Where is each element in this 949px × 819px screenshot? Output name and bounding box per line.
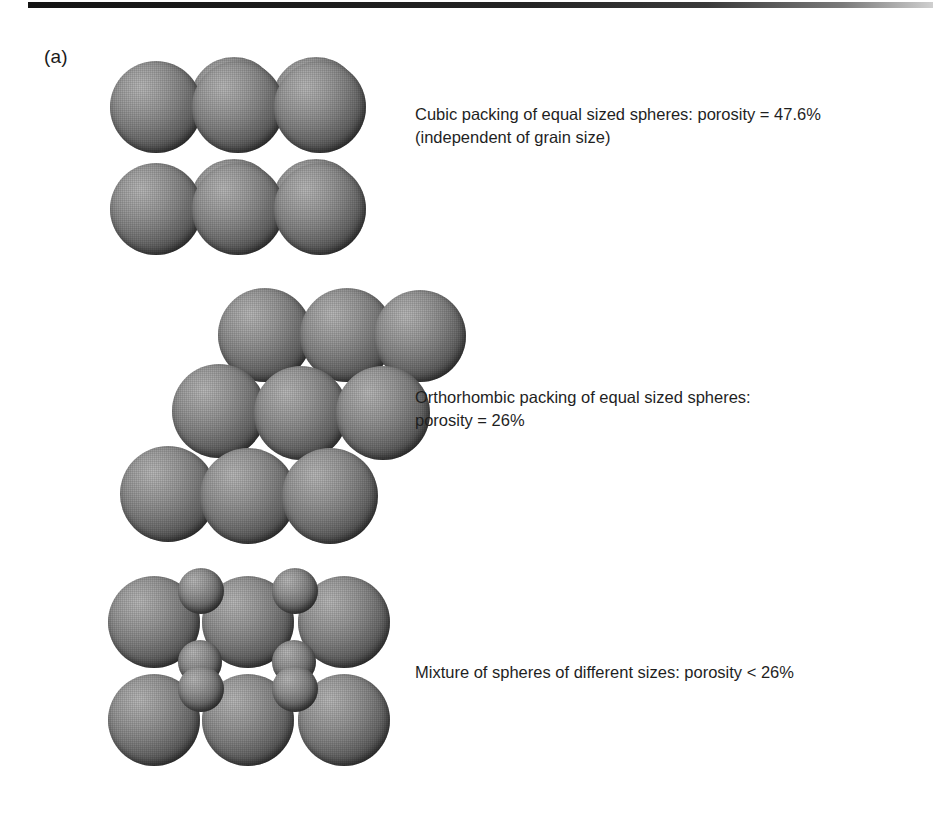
sphere-cluster-mixed-sizes [106, 568, 396, 780]
caption-cubic-line-1: Cubic packing of equal sized spheres: po… [415, 103, 821, 126]
sphere-mixture-small-6 [272, 666, 318, 712]
sphere-cubic-5 [274, 61, 366, 153]
panel-letter-a: (a) [44, 46, 68, 68]
caption-mixed-sizes: Mixture of spheres of different sizes: p… [415, 661, 794, 684]
sphere-cubic-4 [192, 61, 284, 153]
sphere-mixture-small-5 [178, 666, 224, 712]
caption-orthorhombic-packing: Orthorhombic packing of equal sized sphe… [415, 386, 751, 432]
sphere-mixture-small-2 [272, 568, 318, 614]
sphere-orthorhombic-4 [172, 364, 266, 458]
page-top-rule [28, 2, 933, 8]
caption-orthorhombic-line-1: Orthorhombic packing of equal sized sphe… [415, 386, 751, 409]
sphere-orthorhombic-9 [282, 448, 378, 544]
caption-orthorhombic-line-2: porosity = 26% [415, 409, 751, 432]
sphere-cubic-3 [110, 61, 202, 153]
sphere-cubic-8 [110, 163, 202, 255]
sphere-cubic-9 [192, 163, 284, 255]
caption-mixture-line-1: Mixture of spheres of different sizes: p… [415, 661, 794, 684]
caption-cubic-packing: Cubic packing of equal sized spheres: po… [415, 103, 821, 149]
caption-cubic-line-2: (independent of grain size) [415, 126, 821, 149]
sphere-cluster-cubic-packing [104, 55, 360, 260]
sphere-cluster-orthorhombic-packing [120, 288, 430, 550]
sphere-mixture-small-1 [178, 568, 224, 614]
sphere-orthorhombic-5 [254, 366, 348, 460]
figure-page: (a) Cubic packing of equal sized spheres… [0, 0, 949, 819]
sphere-cubic-10 [274, 163, 366, 255]
